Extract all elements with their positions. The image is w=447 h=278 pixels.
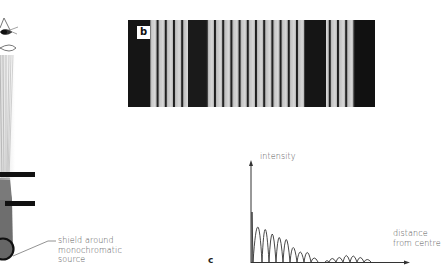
panel-c-label: c: [208, 255, 213, 265]
y-axis-arrow-icon: [249, 160, 253, 166]
intensity-curve: [252, 212, 371, 262]
x-axis-label: distance from centre: [393, 229, 441, 248]
x-axis-label-line-1: distance: [393, 229, 441, 239]
y-axis-label: intensity: [260, 152, 296, 162]
intensity-chart: [0, 0, 447, 278]
x-axis-arrow-icon: [404, 261, 410, 265]
x-axis-label-line-2: from centre: [393, 239, 441, 249]
